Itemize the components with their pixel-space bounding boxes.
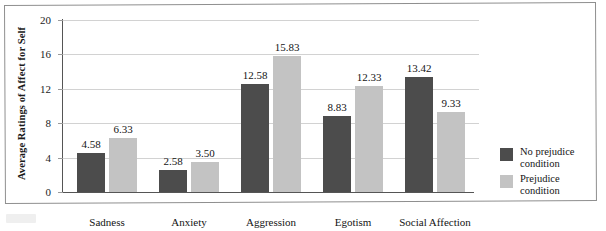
y-axis-tick-label: 4 <box>29 153 51 164</box>
legend-label-line1: No prejudice <box>520 146 575 158</box>
y-axis-tick <box>58 20 63 21</box>
legend-label-line1: Prejudice <box>520 173 560 185</box>
dark-swatch-icon <box>500 148 513 161</box>
bar-value-label: 6.33 <box>100 124 146 135</box>
y-axis-title: Average Ratings of Affect for Self <box>14 14 30 192</box>
bar-value-label: 3.50 <box>182 148 228 159</box>
bar <box>241 84 269 192</box>
x-axis-line <box>62 192 474 193</box>
bar-value-label: 13.42 <box>396 63 442 74</box>
y-axis-tick-label: 12 <box>29 84 51 95</box>
bar-value-label: 15.83 <box>264 42 310 53</box>
legend-label: No prejudicecondition <box>520 146 575 169</box>
legend-label-line2: condition <box>520 158 575 170</box>
y-axis-tick <box>58 192 63 193</box>
chart-legend: No prejudiceconditionPrejudicecondition <box>500 146 596 200</box>
y-axis-tick-label: 16 <box>29 49 51 60</box>
bar <box>437 112 465 192</box>
bar-value-label: 8.83 <box>314 102 360 113</box>
y-axis-tick-label: 20 <box>29 15 51 26</box>
gridline <box>63 54 479 55</box>
bar <box>355 86 383 192</box>
legend-item: No prejudicecondition <box>500 146 596 169</box>
y-axis-tick-label: 0 <box>29 187 51 198</box>
y-axis-tick <box>58 158 63 159</box>
bar <box>109 138 137 192</box>
bar-value-label: 9.33 <box>428 98 474 109</box>
light-swatch-icon <box>500 175 513 188</box>
bar <box>77 153 105 192</box>
legend-label-line2: condition <box>520 185 560 197</box>
bar-value-label: 12.58 <box>232 70 278 81</box>
y-axis-tick <box>58 123 63 124</box>
bar <box>405 77 433 192</box>
plot-area: 0481216204.586.33Sadness2.583.50Anxiety1… <box>63 20 473 192</box>
legend-label: Prejudicecondition <box>520 173 560 196</box>
bar-value-label: 12.33 <box>346 72 392 83</box>
bar <box>191 162 219 192</box>
scan-artifact <box>6 214 36 223</box>
y-axis-tick <box>58 54 63 55</box>
bar <box>323 116 351 192</box>
bar <box>273 56 301 192</box>
y-axis-title-text: Average Ratings of Affect for Self <box>17 26 28 179</box>
bar <box>159 170 187 192</box>
x-axis-category-label: Social Affection <box>380 216 490 228</box>
gridline <box>63 20 479 21</box>
y-axis-tick-label: 8 <box>29 118 51 129</box>
y-axis-tick <box>58 89 63 90</box>
bar-value-label: 4.58 <box>68 139 114 150</box>
legend-item: Prejudicecondition <box>500 173 596 196</box>
